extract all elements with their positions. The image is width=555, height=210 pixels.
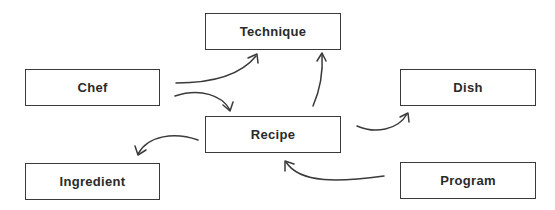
- node-ingredient[interactable]: Ingredient: [25, 163, 160, 200]
- node-label: Chef: [77, 80, 107, 95]
- node-program[interactable]: Program: [400, 162, 536, 199]
- node-chef[interactable]: Chef: [25, 69, 160, 106]
- node-recipe[interactable]: Recipe: [205, 116, 341, 153]
- node-label: Technique: [240, 24, 307, 39]
- edge-recipe-to-dish: [357, 113, 409, 130]
- edge-program-to-recipe: [285, 161, 384, 180]
- edge-recipe-to-ingredient: [135, 136, 198, 155]
- edge-chef-to-recipe: [175, 93, 233, 111]
- edge-chef-to-technique: [176, 54, 258, 83]
- edge-recipe-to-technique: [313, 53, 326, 106]
- node-label: Program: [440, 173, 496, 188]
- node-dish[interactable]: Dish: [400, 69, 536, 106]
- node-label: Recipe: [251, 127, 295, 142]
- node-label: Ingredient: [60, 174, 126, 189]
- node-label: Dish: [453, 80, 482, 95]
- node-technique[interactable]: Technique: [205, 13, 341, 50]
